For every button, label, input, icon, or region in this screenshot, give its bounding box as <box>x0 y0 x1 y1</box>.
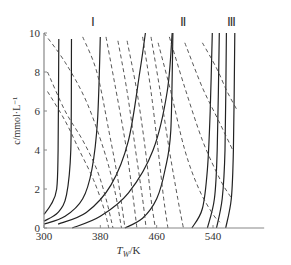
y-tick-label: 4 <box>35 144 41 156</box>
plot-area: 3003804605400246810TW/Kc/mmol·L⁻¹ⅠⅡⅢ <box>0 0 291 265</box>
y-axis-label: c/mmol·L⁻¹ <box>11 97 22 145</box>
solid-curve <box>226 33 235 228</box>
solid-curve <box>44 39 59 214</box>
x-tick-label: 540 <box>205 230 222 242</box>
dashed-curve <box>169 37 230 197</box>
curves <box>44 33 238 228</box>
y-tick-label: 2 <box>35 183 41 195</box>
y-tick-label: 8 <box>35 66 41 78</box>
dashed-curve <box>48 72 114 228</box>
region-label: Ⅰ <box>91 14 95 29</box>
dashed-curve <box>127 41 155 228</box>
solid-curve <box>44 37 100 224</box>
region-label: Ⅲ <box>227 14 236 29</box>
labels: 3003804605400246810TW/Kc/mmol·L⁻¹ⅠⅡⅢ <box>11 14 236 259</box>
y-tick-label: 0 <box>35 222 41 234</box>
y-tick-label: 6 <box>35 105 41 117</box>
dashed-curve <box>48 92 109 229</box>
dashed-curve <box>158 43 220 222</box>
solid-curve <box>192 33 212 228</box>
region-label: Ⅱ <box>180 14 186 29</box>
chart: 3003804605400246810TW/Kc/mmol·L⁻¹ⅠⅡⅢ <box>0 0 291 265</box>
x-tick-label: 460 <box>148 230 165 242</box>
y-tick-label: 10 <box>29 27 41 39</box>
x-axis-label: TW/K <box>117 244 141 259</box>
solid-curve <box>125 33 173 228</box>
dashed-curve <box>106 37 137 228</box>
x-tick-label: 380 <box>92 230 109 242</box>
dashed-curve <box>83 37 125 228</box>
dashed-curve <box>202 43 237 111</box>
